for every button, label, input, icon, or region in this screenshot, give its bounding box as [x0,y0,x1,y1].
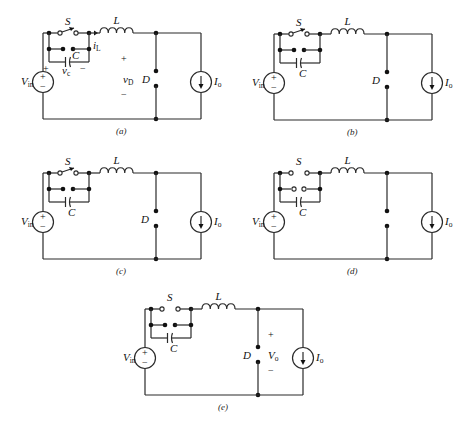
voltage-source-vin: +− [135,347,156,369]
switch-label: S [65,15,71,27]
load-label: Io [213,215,222,229]
panel-caption: (c) [116,266,126,276]
arrow-down-icon [199,84,204,89]
voltage-source-vin: +− [264,211,285,233]
switch-label: S [296,155,302,167]
capacitor-label: C [299,206,307,218]
switch-contact [58,171,62,175]
circuit-panel-b: +−VinSCLDIo(b) [252,15,453,137]
circuit-panel-e: +−VinSCLD+Vo−Io(e) [123,290,324,412]
source-label: Vin [252,215,265,229]
diode-contact [385,209,390,214]
switch-contact [176,307,180,311]
node-dot [47,187,52,192]
inductor-l [100,28,133,33]
node-dot [278,48,283,53]
voltage-source-vin: +− [264,72,285,94]
vo-plus: + [268,329,274,340]
bypass-branch [151,323,191,328]
inductor-label: L [344,15,351,27]
diode-label: D [371,74,380,86]
switch-s [49,167,89,175]
switch-label: S [65,155,71,167]
load-label: Io [444,76,453,90]
minus-sign: − [40,221,46,232]
load-label: Io [315,351,324,365]
bypass-contact [61,47,66,52]
inductor-l [331,29,364,34]
panel-caption: (e) [218,402,228,412]
bypass-branch [280,187,320,191]
switch-contact [74,31,78,35]
current-source-io [422,73,443,94]
current-label: iL [93,39,101,53]
diode-contact [385,70,390,75]
bypass-contact [163,323,168,328]
circuit-panel-a: +−VinSC+vc−iLLD+vD−Io(a) [21,14,222,136]
switch-label: S [167,291,173,303]
circuit-figure: +−VinSC+vc−iLLD+vD−Io(a)+−VinSCLDIo(b)+−… [0,0,465,427]
switch-contact [160,307,164,311]
switch-s [151,307,191,311]
switch-label: S [296,16,302,28]
circuit-panel-c: +−VinSCLDIo(c) [21,154,222,276]
bypass-contact [61,187,66,192]
node-dot [87,47,92,52]
capacitor-label: C [170,342,178,354]
load-label: Io [444,215,453,229]
bypass-contact [292,48,297,53]
capacitor-label: C [68,206,76,218]
switch-contact [302,187,306,191]
source-label: Vin [252,76,265,90]
minus-sign: − [271,221,277,232]
diode-label: D [141,73,150,85]
arrow-down-icon [301,360,306,365]
current-source-io [293,348,314,369]
switch-contact [74,171,78,175]
diode-contact [256,345,261,350]
switch-contact [289,171,293,175]
switch-contact [289,32,293,36]
vd-plus: + [121,53,127,64]
current-source-io [422,212,443,233]
inductor-l [202,304,235,309]
source-label: Vin [21,215,34,229]
inductor-label: L [215,290,222,302]
vo-minus: − [268,365,274,376]
inductor-label: L [344,154,351,166]
panel-caption: (b) [347,127,358,137]
node-dot [278,187,283,192]
switch-s [280,28,320,36]
cap-minus: − [80,63,86,74]
node-dot [149,323,154,328]
switch-contact [58,31,62,35]
arrow-down-icon [199,224,204,229]
diode-label: D [140,213,149,225]
current-source-io [191,72,212,93]
capacitor-label: C [299,67,307,79]
switch-s [280,171,320,175]
diode-label: D [242,349,251,361]
source-label: Vin [123,351,136,365]
inductor-l [100,168,133,173]
panel-caption: (d) [347,266,358,276]
minus-sign: − [142,357,148,368]
node-dot [189,323,194,328]
cap-plus: + [43,63,49,74]
node-dot [47,47,52,52]
minus-sign: − [271,82,277,93]
arrow-down-icon [430,224,435,229]
circuit-panel-d: +−VinSCLIo(d) [252,154,453,276]
voltage-source-vin: +− [33,211,54,233]
current-source-io [191,212,212,233]
bypass-branch [280,48,320,53]
inductor-label: L [113,14,120,26]
node-dot [318,187,323,192]
inductor-label: L [113,154,120,166]
inductor-l [331,168,364,173]
switch-contact [305,32,309,36]
node-dot [318,48,323,53]
switch-s [49,27,89,35]
diode-contact [154,69,159,74]
diode-voltage-label: vD [123,73,134,87]
